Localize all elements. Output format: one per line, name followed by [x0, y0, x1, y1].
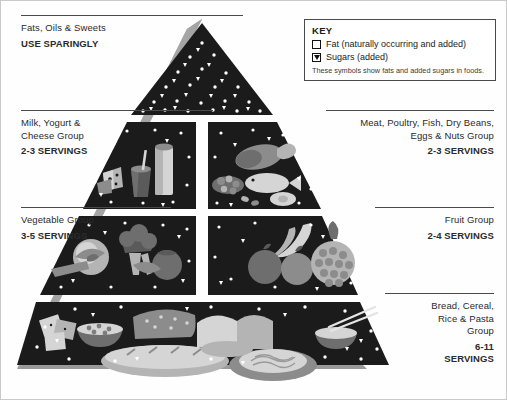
key-legend-box: KEY Fat (naturally occurring and added) … — [304, 19, 496, 81]
label-servings: 2-3 SERVINGS — [326, 145, 494, 158]
open-square-icon — [312, 40, 321, 49]
diagram-frame: Fats, Oils & Sweets USE SPARINGLY Milk, … — [0, 0, 507, 400]
label-name-line2: Eggs & Nuts Group — [326, 130, 494, 143]
label-meat-poultry-fish-group: Meat, Poultry, Fish, Dry Beans, Eggs & N… — [326, 110, 494, 158]
label-rule — [326, 110, 494, 111]
label-milk-yogurt-cheese-group: Milk, Yogurt & Cheese Group 2-3 SERVINGS — [21, 110, 213, 158]
label-servings: 2-4 SERVINGS — [375, 230, 494, 243]
label-vegetable-group: Vegetable Group 3-5 SERVINGS — [21, 207, 171, 242]
label-bread-cereal-rice-pasta-group: Bread, Cereal, Rice & Pasta Group 6-11 S… — [385, 293, 494, 366]
label-servings: USE SPARINGLY — [21, 38, 243, 51]
label-servings: 3-5 SERVINGS — [21, 230, 171, 243]
label-rule — [375, 207, 494, 208]
tier-bread-group — [17, 302, 389, 381]
label-servings: 2-3 SERVINGS — [21, 145, 213, 158]
label-name-line1: Bread, Cereal, — [385, 300, 494, 313]
label-name: Fats, Oils & Sweets — [21, 22, 243, 35]
label-servings-line1: 6-11 — [385, 341, 494, 354]
label-name: Fruit Group — [375, 214, 494, 227]
key-item-sugars-label: Sugars (added) — [326, 52, 388, 63]
key-note: These symbols show fats and added sugars… — [312, 66, 488, 75]
label-name-line1: Meat, Poultry, Fish, Dry Beans, — [326, 117, 494, 130]
key-item-fat: Fat (naturally occurring and added) — [312, 39, 488, 50]
tier-meat-group — [208, 122, 321, 209]
label-rule — [385, 293, 494, 294]
key-item-sugars: Sugars (added) — [312, 52, 488, 63]
label-name-line2: Rice & Pasta — [385, 313, 494, 326]
label-rule — [21, 207, 171, 208]
label-name-line1: Milk, Yogurt & — [21, 117, 213, 130]
key-title: KEY — [312, 25, 488, 36]
label-name-line3: Group — [385, 325, 494, 338]
label-rule — [21, 110, 213, 111]
tier-fruit-group — [208, 216, 358, 295]
label-name: Vegetable Group — [21, 214, 171, 227]
label-servings-line2: SERVINGS — [385, 353, 494, 366]
label-name-line2: Cheese Group — [21, 130, 213, 143]
label-fats-oils-sweets: Fats, Oils & Sweets USE SPARINGLY — [21, 15, 243, 50]
label-rule — [21, 15, 243, 16]
label-fruit-group: Fruit Group 2-4 SERVINGS — [375, 207, 494, 242]
filled-triangle-icon — [312, 53, 321, 62]
key-item-fat-label: Fat (naturally occurring and added) — [326, 39, 466, 50]
